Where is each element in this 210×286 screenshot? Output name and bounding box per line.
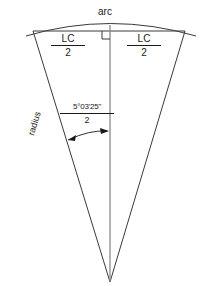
half-chord-left-numerator: LC bbox=[51, 33, 85, 46]
circular-sector-diagram: arc LC 2 LC 2 5°03'25" 2 radius bbox=[0, 0, 210, 286]
angle-arrow-head-right-icon bbox=[100, 128, 109, 134]
left-radius-line bbox=[33, 31, 110, 282]
half-chord-left-label: LC 2 bbox=[51, 33, 85, 58]
angle-arrow-head-left-icon bbox=[68, 135, 76, 141]
half-central-angle-label: 5°03'25" 2 bbox=[60, 102, 114, 125]
central-angle-value: 5°03'25" bbox=[60, 102, 114, 114]
arc-label: arc bbox=[0, 7, 210, 17]
half-chord-right-denominator: 2 bbox=[127, 46, 161, 58]
half-chord-right-numerator: LC bbox=[127, 33, 161, 46]
half-chord-right-label: LC 2 bbox=[127, 33, 161, 58]
right-angle-mark-icon bbox=[102, 31, 110, 39]
central-angle-divisor: 2 bbox=[60, 114, 114, 125]
half-chord-left-denominator: 2 bbox=[51, 46, 85, 58]
sector-drawing-canvas bbox=[0, 0, 210, 286]
right-radius-line bbox=[110, 31, 185, 282]
